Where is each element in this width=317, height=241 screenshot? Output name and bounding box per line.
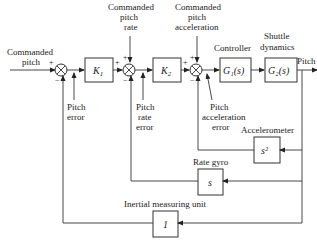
- input-label-line1: Commanded: [7, 47, 53, 57]
- block-diagram: Commanded pitch + − Pitch error K1 + Com…: [0, 0, 317, 241]
- sum2-minus: −: [123, 76, 128, 85]
- shuttle-title-line1: Shuttle: [264, 31, 290, 41]
- sum3-plus-top: +: [190, 53, 195, 62]
- sum2-plus-top: +: [123, 53, 128, 62]
- imu-label: 1: [163, 219, 168, 230]
- rate-gyro-label: s: [208, 177, 212, 188]
- cmd-rate-line1: Commanded: [108, 2, 154, 12]
- accel-error-line3: error: [212, 122, 230, 132]
- cmd-rate-line3: rate: [124, 22, 138, 32]
- accel-error-line2: acceleration: [202, 112, 246, 122]
- sum1-minus: −: [55, 76, 60, 85]
- accelerometer-title: Accelerometer: [241, 125, 294, 135]
- pitch-error-line1: Pitch: [67, 102, 86, 112]
- cmd-accel-line3: acceleration: [175, 22, 219, 32]
- sum1-plus: +: [49, 58, 54, 67]
- rate-error-line2: rate: [138, 112, 152, 122]
- accelerometer-label: s²: [261, 145, 269, 156]
- input-label-line2: pitch: [22, 57, 40, 67]
- summing-junction-3: [190, 64, 202, 76]
- shuttle-title-line2: dynamics: [260, 42, 295, 52]
- sum2-plus-left: +: [115, 58, 120, 67]
- g2-label: G₂(s): [268, 65, 290, 77]
- imu-title: Inertial measuring unit: [124, 199, 206, 209]
- cmd-accel-line2: pitch: [188, 12, 206, 22]
- summing-junction-1: [55, 64, 67, 76]
- rate-gyro-title: Rate gyro: [193, 157, 229, 167]
- rate-error-line3: error: [136, 122, 154, 132]
- summing-junction-2: [123, 64, 135, 76]
- rate-error-line1: Pitch: [136, 102, 155, 112]
- pitch-error-line2: error: [67, 112, 85, 122]
- sum3-plus-left: +: [183, 58, 188, 67]
- accel-error-pointer: [207, 74, 212, 100]
- accel-error-line1: Pitch: [210, 102, 229, 112]
- cmd-rate-line2: pitch: [120, 12, 138, 22]
- cmd-accel-line1: Commanded: [175, 2, 221, 12]
- g1-label: G₁(s): [223, 65, 245, 77]
- output-label: Pitch: [297, 56, 316, 66]
- sum3-minus: −: [190, 76, 195, 85]
- controller-title: Controller: [214, 43, 251, 53]
